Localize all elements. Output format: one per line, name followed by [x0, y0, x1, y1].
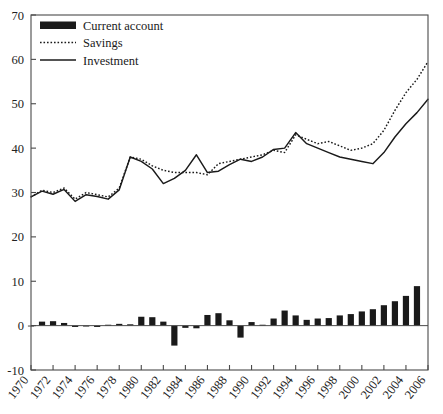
bar — [315, 319, 321, 326]
bar — [226, 320, 232, 325]
legend-label: Investment — [83, 54, 139, 68]
bar — [392, 301, 398, 325]
x-axis-labels: 1970197219741976197819801982198419861988… — [5, 373, 428, 402]
bar — [381, 305, 387, 325]
y-tick-label: 70 — [12, 9, 25, 23]
x-tick-label: 1982 — [137, 373, 163, 401]
bar — [370, 309, 376, 325]
legend-marker-current-account — [40, 22, 76, 30]
bar — [337, 315, 343, 325]
current-account-bars — [28, 286, 420, 345]
x-tick-label: 1994 — [270, 373, 297, 402]
x-tick-label: 2000 — [336, 373, 362, 401]
savings-line — [31, 62, 428, 200]
bar — [326, 318, 332, 326]
y-tick-label: 0 — [18, 319, 24, 333]
chart-legend: Current accountSavingsInvestment — [40, 19, 164, 68]
y-tick-label: 20 — [12, 230, 25, 244]
chart-canvas: 706050403020100-10 197019721974197619781… — [0, 0, 443, 414]
investment-line — [31, 99, 428, 201]
bar — [204, 315, 210, 326]
y-tick-label: 10 — [12, 275, 25, 289]
x-tick-label: 1992 — [248, 373, 274, 401]
bar — [359, 311, 365, 325]
bar — [304, 320, 310, 326]
legend-label: Current account — [83, 19, 164, 33]
x-tick-label: 1988 — [203, 373, 229, 401]
y-axis-labels: 706050403020100-10 — [7, 9, 24, 378]
bar — [271, 319, 277, 326]
y-tick-label: 30 — [12, 186, 25, 200]
bar — [403, 296, 409, 326]
y-tick-label: 40 — [12, 142, 25, 156]
x-tick-label: 2004 — [380, 373, 407, 402]
x-tick-label: 1974 — [49, 373, 76, 402]
bar — [160, 322, 166, 326]
chart-figure: 706050403020100-10 197019721974197619781… — [0, 0, 443, 414]
bar — [50, 321, 56, 325]
legend-label: Savings — [83, 36, 123, 50]
bar — [348, 314, 354, 326]
plot-frame — [31, 15, 428, 370]
x-tick-label: 1996 — [292, 373, 318, 401]
bar — [293, 315, 299, 325]
x-tick-label: 1990 — [225, 373, 251, 401]
y-axis-ticks — [31, 15, 36, 370]
bar — [282, 311, 288, 326]
x-tick-label: 1976 — [71, 373, 97, 401]
bar — [39, 322, 45, 326]
bar — [138, 317, 144, 326]
bar — [414, 286, 420, 325]
bar — [248, 322, 254, 326]
x-tick-label: 2002 — [358, 373, 384, 401]
x-tick-label: 1978 — [93, 373, 119, 401]
x-tick-label: 1980 — [115, 373, 141, 401]
x-tick-label: 1984 — [159, 373, 186, 402]
bar — [237, 326, 243, 338]
x-tick-label: 2006 — [402, 373, 428, 401]
y-tick-label: 60 — [12, 53, 25, 67]
bar — [171, 326, 177, 346]
x-axis-ticks — [31, 365, 428, 370]
bar — [149, 317, 155, 325]
x-tick-label: 1986 — [181, 373, 207, 401]
x-tick-label: 1972 — [27, 373, 53, 401]
y-tick-label: 50 — [12, 97, 25, 111]
bar — [215, 313, 221, 325]
x-tick-label: 1998 — [314, 373, 340, 401]
